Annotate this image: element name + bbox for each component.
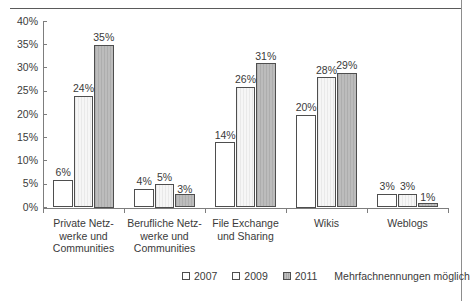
bar-label-2007-3: 14% — [207, 129, 243, 141]
bar-label-2011-4: 29% — [329, 59, 365, 71]
x-axis-category-label: Berufliche Netz- werke und Communities — [124, 217, 205, 255]
y-axis-tick — [43, 91, 47, 92]
y-axis-tick — [43, 44, 47, 45]
legend-item-label: 2009 — [244, 270, 267, 282]
x-axis-tick — [124, 208, 125, 213]
bar-2007-1[interactable] — [53, 180, 73, 208]
x-axis-category-label: Private Netz- werke und Communities — [43, 217, 124, 255]
bar-2007-3[interactable] — [215, 142, 235, 207]
chart-legend: 200720092011Mehrfachnennungen möglich — [182, 268, 470, 283]
x-axis-tick — [367, 208, 368, 213]
bar-2007-5[interactable] — [377, 194, 397, 208]
legend-item-2011[interactable]: 2011 — [283, 270, 318, 282]
bar-label-2009-2: 5% — [147, 171, 183, 183]
y-axis-tick — [43, 184, 47, 185]
y-axis-tick-label: 25% — [0, 84, 38, 96]
bar-2011-5[interactable] — [418, 203, 438, 208]
bar-label-2007-4: 20% — [288, 101, 324, 113]
y-axis-tick — [43, 137, 47, 138]
bar-label-2011-1: 35% — [86, 31, 122, 43]
x-axis-category-label: Weblogs — [367, 217, 448, 230]
bar-2009-3[interactable] — [236, 87, 256, 208]
bar-2011-2[interactable] — [175, 194, 195, 208]
y-axis-tick-label: 30% — [0, 61, 38, 73]
y-axis-tick-label: 10% — [0, 154, 38, 166]
bar-2011-1[interactable] — [94, 45, 114, 208]
bar-chart-plot: 0%5%10%15%20%25%30%35%40% 6%24%35%4%5%3%… — [0, 0, 470, 301]
x-axis-tick — [286, 208, 287, 213]
x-axis-category-label: Wikis — [286, 217, 367, 230]
legend-item-2007[interactable]: 2007 — [182, 270, 217, 282]
y-axis-tick — [43, 67, 47, 68]
x-axis-line — [43, 208, 448, 209]
y-axis-tick-label: 0% — [0, 201, 38, 213]
y-axis-tick-label: 35% — [0, 38, 38, 50]
y-axis-tick — [43, 21, 47, 22]
bar-2009-4[interactable] — [317, 77, 337, 207]
bar-2009-1[interactable] — [74, 96, 94, 208]
bar-label-2009-3: 26% — [228, 73, 264, 85]
bar-label-2009-1: 24% — [66, 82, 102, 94]
y-axis-tick — [43, 114, 47, 115]
bar-label-2011-3: 31% — [248, 50, 284, 62]
x-axis-category-label: File Exchange und Sharing — [205, 217, 286, 242]
legend-item-2009[interactable]: 2009 — [232, 270, 267, 282]
bar-label-2007-1: 6% — [45, 166, 81, 178]
bar-label-2009-5: 3% — [390, 180, 426, 192]
gray-square-icon — [283, 272, 291, 280]
bar-2007-4[interactable] — [296, 115, 316, 208]
white-square-icon — [182, 272, 190, 280]
x-axis-tick — [448, 208, 449, 213]
y-axis-tick — [43, 160, 47, 161]
light-square-icon — [232, 272, 240, 280]
bar-label-2011-5: 1% — [410, 191, 446, 203]
bar-label-2011-2: 3% — [167, 183, 203, 195]
bar-2011-4[interactable] — [337, 73, 357, 208]
y-axis-tick-label: 15% — [0, 131, 38, 143]
legend-item-label: 2007 — [194, 270, 217, 282]
y-axis-tick-label: 40% — [0, 15, 38, 27]
x-axis-tick — [205, 208, 206, 213]
y-axis-tick-label: 20% — [0, 108, 38, 120]
bar-2007-2[interactable] — [134, 189, 154, 208]
x-axis-tick — [43, 208, 44, 213]
legend-item-label: 2011 — [295, 270, 318, 282]
legend-note: Mehrfachnennungen möglich — [334, 270, 469, 282]
y-axis-tick-label: 5% — [0, 177, 38, 189]
figure-container: Abbildung: Nutzung von Social Software i… — [0, 0, 470, 301]
